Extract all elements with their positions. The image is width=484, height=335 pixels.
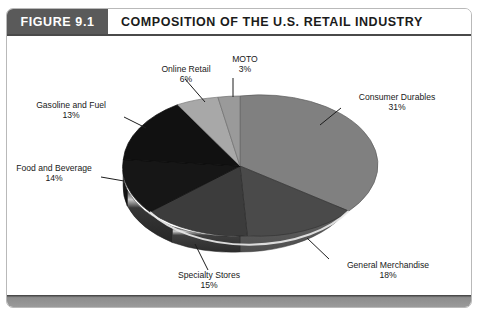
callout-gasoline-and-fuel: Gasoline and Fuel 13% [21, 100, 121, 121]
callout-moto-name: MOTO [232, 54, 258, 64]
callout-specialty-stores-pct: 15% [159, 280, 259, 290]
callout-gasoline-and-fuel-pct: 13% [21, 110, 121, 120]
figure-number: FIGURE 9.1 [7, 9, 108, 34]
callout-food-and-beverage-name: Food and Beverage [16, 163, 92, 173]
callout-specialty-stores: Specialty Stores 15% [159, 270, 259, 291]
callout-food-and-beverage-pct: 14% [6, 173, 103, 183]
callout-consumer-durables-name: Consumer Durables [359, 92, 435, 102]
figure-title: COMPOSITION OF THE U.S. RETAIL INDUSTRY [108, 9, 471, 34]
callout-consumer-durables: Consumer Durables 31% [341, 92, 453, 113]
callout-general-merchandise-pct: 18% [329, 270, 447, 280]
callout-online-retail: Online Retail 6% [131, 64, 241, 85]
callout-online-retail-name: Online Retail [161, 64, 210, 74]
figure-header: FIGURE 9.1 COMPOSITION OF THE U.S. RETAI… [7, 9, 471, 36]
figure-card: FIGURE 9.1 COMPOSITION OF THE U.S. RETAI… [6, 8, 472, 308]
pie-chart-plot: MOTO 3% Online Retail 6% Gasoline and Fu… [7, 38, 471, 288]
callout-general-merchandise-name: General Merchandise [347, 260, 429, 270]
figure-footer-bar [7, 295, 471, 307]
callout-general-merchandise: General Merchandise 18% [329, 260, 447, 281]
callout-specialty-stores-name: Specialty Stores [178, 270, 240, 280]
callout-food-and-beverage: Food and Beverage 14% [6, 163, 103, 184]
callout-gasoline-and-fuel-name: Gasoline and Fuel [36, 100, 106, 110]
callout-consumer-durables-pct: 31% [341, 102, 453, 112]
callout-online-retail-pct: 6% [131, 74, 241, 84]
